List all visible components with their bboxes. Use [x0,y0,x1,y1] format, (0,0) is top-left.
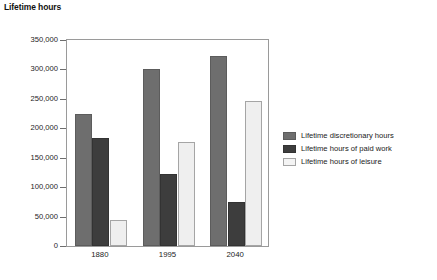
legend-item: Lifetime discretionary hours [283,131,394,140]
bar [210,56,227,246]
x-axis-tick-label: 1880 [74,250,126,259]
plot-area [66,39,269,247]
bar-group [210,56,262,246]
legend-item: Lifetime hours of paid work [283,144,394,153]
y-axis-tick-label: 50,000 [0,212,58,221]
y-axis-tick-label: 150,000 [0,153,58,162]
bar [110,220,127,246]
bar [92,138,109,246]
legend-item-label: Lifetime discretionary hours [301,131,394,140]
chart-legend: Lifetime discretionary hoursLifetime hou… [283,131,394,166]
legend-item-label: Lifetime hours of leisure [301,157,382,166]
y-axis-tick-label: 350,000 [0,35,58,44]
bar [75,114,92,246]
bar [228,202,245,246]
bar [143,69,160,246]
bar-group [143,69,195,246]
x-axis-tick-label: 1995 [142,250,194,259]
legend-swatch-icon [283,132,296,140]
chart-axis-title: Lifetime hours [4,2,61,12]
bar [160,174,177,246]
legend-item-label: Lifetime hours of paid work [301,144,392,153]
y-axis-tick-label: 300,000 [0,64,58,73]
bar-group [75,114,127,246]
x-axis-tick-label: 2040 [209,250,261,259]
y-axis-tick-label: 200,000 [0,123,58,132]
legend-swatch-icon [283,145,296,153]
y-axis-tick-label: 250,000 [0,94,58,103]
y-axis-tick-label: 100,000 [0,182,58,191]
bar [178,142,195,246]
bars-layer [67,40,268,246]
y-axis-tick-label: 0 [0,241,58,250]
legend-swatch-icon [283,158,296,166]
bar-chart: Lifetime hours 050,000100,000150,000200,… [0,0,437,280]
bar [245,101,262,246]
legend-item: Lifetime hours of leisure [283,157,394,166]
